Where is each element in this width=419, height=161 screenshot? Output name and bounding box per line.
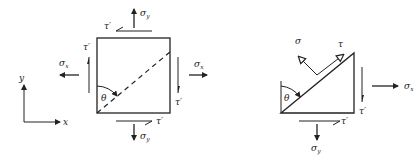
sigma-normal-arrow-icon	[299, 57, 317, 75]
tau-bottom-label: τ′	[156, 116, 163, 126]
sigma-y-top-label: σy	[140, 8, 150, 20]
right-panel: θ σ τ τ′ σx τ′ σy	[281, 36, 414, 155]
tau-shear-label: τ	[338, 39, 344, 49]
sigma-x-left-label: σx	[59, 58, 69, 69]
sigma-x-right-label: σx	[194, 59, 204, 70]
stress-element-square	[97, 38, 170, 113]
sigma-y-wedge-label: σy	[311, 143, 321, 155]
sigma-y-bottom-label: σy	[140, 131, 150, 143]
diagram-canvas: y x θ σy τ′ τ′ σx τ′ σx τ′	[0, 0, 419, 161]
left-panel: y x θ σy τ′ τ′ σx τ′ σx τ′	[18, 8, 207, 143]
stress-element-diagram: y x θ σy τ′ τ′ σx τ′ σx τ′	[0, 0, 419, 161]
coordinate-axes: y x	[18, 73, 68, 127]
sigma-x-wedge-label: σx	[404, 81, 414, 92]
inclined-plane-dashed	[97, 52, 170, 113]
theta-arc-icon	[97, 86, 117, 96]
x-axis-label: x	[63, 117, 68, 127]
tau-bottom-wedge-label: τ′	[341, 116, 348, 126]
theta-label-left: θ	[101, 93, 107, 103]
stress-wedge-triangle	[281, 53, 354, 113]
sigma-normal-label: σ	[295, 36, 302, 46]
tau-right-label: τ′	[175, 97, 182, 107]
tau-right-wedge-label: τ′	[359, 106, 366, 116]
theta-label-right: θ	[284, 93, 290, 103]
tau-left-label: τ′	[83, 42, 90, 52]
tau-top-label: τ′	[104, 21, 111, 31]
y-axis-label: y	[18, 73, 25, 83]
